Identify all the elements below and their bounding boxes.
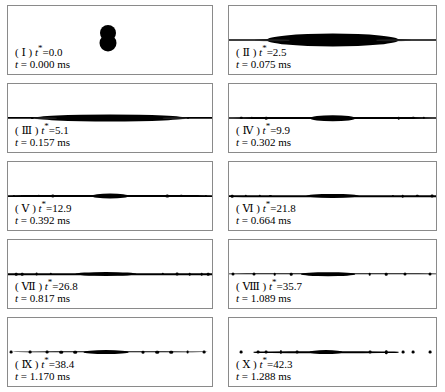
panel-10-frag-6 xyxy=(296,351,299,354)
panel-3-haze-5 xyxy=(163,117,187,119)
panel-10-frag-7 xyxy=(368,351,371,354)
panel-10-frag-11 xyxy=(428,351,431,354)
panel-10-tstar-value: t*=42.3 xyxy=(259,358,292,370)
panel-7-frag-7 xyxy=(176,273,179,276)
panel-9-frag-2 xyxy=(10,351,13,354)
panel-7-frag-2 xyxy=(15,273,18,276)
panel-3-tstar-value: t*=5.1 xyxy=(41,124,69,136)
panel-9-frag-8 xyxy=(155,351,159,354)
panel-9-frag-7 xyxy=(141,351,144,354)
panel-3-haze-4 xyxy=(32,117,56,119)
panel-2-numeral: Ⅱ xyxy=(242,46,249,58)
panel-4-time-label: t = 0.302 ms xyxy=(236,137,291,149)
panel-3-numeral: Ⅲ xyxy=(21,124,32,136)
panel-7-ligament-1 xyxy=(8,273,212,275)
panel-9-frag-6 xyxy=(74,351,78,354)
panel-7-time-label: t = 0.817 ms xyxy=(15,293,78,305)
droplet-collision-figure: ( Ⅰ ) t*=0.0t = 0.000 ms( Ⅱ ) t*=2.5t = … xyxy=(0,0,445,392)
panel-10-frag-10 xyxy=(412,351,415,354)
panel-3: ( Ⅲ ) t*=5.1t = 0.157 ms xyxy=(7,83,213,153)
panel-6-tstar-value: t*=21.8 xyxy=(263,202,296,214)
panel-7-frag-10 xyxy=(207,273,210,276)
panel-2-haze-2 xyxy=(256,39,289,41)
panel-6-frag-9 xyxy=(430,195,433,198)
panel-4-tstar-value: t*=9.9 xyxy=(263,124,291,136)
panel-8: ( Ⅷ ) t*=35.7t = 1.089 ms xyxy=(228,239,437,309)
panel-10: ( Ⅹ ) t*=42.3t = 1.288 ms xyxy=(228,317,437,387)
panel-9-frag-4 xyxy=(45,351,48,354)
panel-2: ( Ⅱ ) t*=2.5t = 0.075 ms xyxy=(228,5,437,75)
panel-8-frag-3 xyxy=(252,273,255,276)
panel-10-caption: ( Ⅹ ) t*=42.3t = 1.288 ms xyxy=(236,359,292,383)
panel-2-time-label: t = 0.075 ms xyxy=(236,59,291,71)
panel-6: ( Ⅵ ) t*=21.8t = 0.664 ms xyxy=(228,161,437,231)
panel-7: ( Ⅶ ) t*=26.8t = 0.817 ms xyxy=(7,239,213,309)
panel-9-frag-3 xyxy=(29,351,32,354)
panel-8-frag-8 xyxy=(403,273,406,276)
panel-4: ( Ⅳ ) t*=9.9t = 0.302 ms xyxy=(228,83,437,153)
panel-10-frag-5 xyxy=(280,350,282,354)
panel-9-caption: ( Ⅸ ) t*=38.4t = 1.170 ms xyxy=(15,359,74,383)
panel-9-time-label: t = 1.170 ms xyxy=(15,371,74,383)
panel-4-frag-5 xyxy=(397,117,400,120)
panel-1-tstar-value: t*=0.0 xyxy=(35,46,63,58)
panel-6-frag-7 xyxy=(402,195,405,198)
panel-10-ligament-1 xyxy=(254,351,399,353)
panel-10-time-label: t = 1.288 ms xyxy=(236,371,292,383)
panel-5-frag-5 xyxy=(51,195,54,198)
panel-6-numeral: Ⅵ xyxy=(242,202,253,214)
panel-2-haze-3 xyxy=(376,39,409,41)
panel-1-caption: ( Ⅰ ) t*=0.0t = 0.000 ms xyxy=(15,47,70,71)
panel-10-frag-3 xyxy=(257,351,260,354)
panel-8-time-label: t = 1.089 ms xyxy=(236,293,302,305)
panel-8-frag-2 xyxy=(232,273,235,276)
panel-6-caption: ( Ⅵ ) t*=21.8t = 0.664 ms xyxy=(236,203,296,227)
panel-2-tstar-value: t*=2.5 xyxy=(259,46,287,58)
panel-8-numeral: Ⅷ xyxy=(242,280,259,292)
panel-8-caption: ( Ⅷ ) t*=35.7t = 1.089 ms xyxy=(236,281,302,305)
panel-3-time-label: t = 0.157 ms xyxy=(15,137,70,149)
panel-4-ligament-1 xyxy=(229,117,436,119)
panel-4-caption: ( Ⅳ ) t*=9.9t = 0.302 ms xyxy=(236,125,291,149)
panel-2-caption: ( Ⅱ ) t*=2.5t = 0.075 ms xyxy=(236,47,291,71)
panel-3-caption: ( Ⅲ ) t*=5.1t = 0.157 ms xyxy=(15,125,70,149)
panel-7-frag-8 xyxy=(188,273,191,276)
panel-10-frag-4 xyxy=(265,351,268,354)
panel-4-frag-4 xyxy=(265,117,268,120)
panel-10-frag-9 xyxy=(401,351,404,354)
panel-9-frag-9 xyxy=(169,351,173,354)
panel-5-tstar-value: t*=12.9 xyxy=(39,202,72,214)
panel-9-frag-10 xyxy=(186,351,189,354)
panel-7-numeral: Ⅶ xyxy=(21,280,35,292)
panel-9-frag-5 xyxy=(59,351,63,354)
panel-5-time-label: t = 0.392 ms xyxy=(15,215,72,227)
panel-9: ( Ⅸ ) t*=38.4t = 1.170 ms xyxy=(7,317,213,387)
panel-8-frag-5 xyxy=(290,273,293,276)
panel-1-blob-1 xyxy=(99,34,116,51)
panel-7-tstar-value: t*=26.8 xyxy=(45,280,78,292)
panel-4-numeral: Ⅳ xyxy=(242,124,253,136)
panel-8-frag-4 xyxy=(273,273,276,276)
panel-8-frag-9 xyxy=(428,273,431,276)
panel-9-frag-11 xyxy=(202,351,205,354)
panel-9-numeral: Ⅸ xyxy=(21,358,32,370)
panel-7-frag-9 xyxy=(201,273,204,276)
panel-8-frag-7 xyxy=(385,273,388,276)
panel-9-tstar-value: t*=38.4 xyxy=(41,358,74,370)
panel-10-frag-2 xyxy=(240,351,243,354)
panel-6-frag-2 xyxy=(231,195,234,198)
panel-8-frag-6 xyxy=(368,273,371,276)
panel-1-time-label: t = 0.000 ms xyxy=(15,59,70,71)
panel-6-time-label: t = 0.664 ms xyxy=(236,215,296,227)
panel-7-caption: ( Ⅶ ) t*=26.8t = 0.817 ms xyxy=(15,281,78,305)
panel-7-frag-4 xyxy=(35,273,38,276)
panel-5-frag-6 xyxy=(165,195,168,198)
panel-7-frag-3 xyxy=(21,273,24,276)
panel-5-caption: ( Ⅴ ) t*=12.9t = 0.392 ms xyxy=(15,203,72,227)
panel-5: ( Ⅴ ) t*=12.9t = 0.392 ms xyxy=(7,161,213,231)
panel-8-tstar-value: t*=35.7 xyxy=(269,280,302,292)
panel-1: ( Ⅰ ) t*=0.0t = 0.000 ms xyxy=(7,5,213,75)
